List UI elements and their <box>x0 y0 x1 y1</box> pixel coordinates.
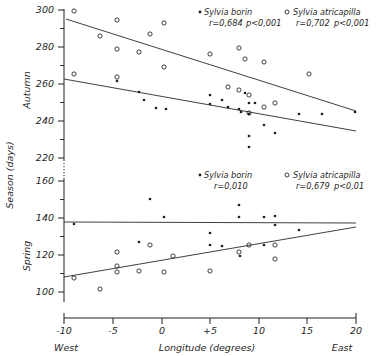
data-point <box>307 72 311 76</box>
x-tick-label-0: 0 <box>159 325 165 336</box>
data-point <box>321 113 324 116</box>
filled-dot-marker-icon <box>199 11 202 14</box>
data-point <box>209 232 212 235</box>
y-tick-label-240: 240 <box>36 115 54 126</box>
data-point <box>298 229 301 232</box>
data-point <box>162 270 166 274</box>
data-point <box>208 269 212 273</box>
data-point <box>274 215 277 218</box>
data-point <box>209 244 212 247</box>
y-axis-autumn-label: Autumn <box>21 71 32 110</box>
data-point <box>208 52 212 56</box>
data-point <box>209 94 212 97</box>
filled-dot-marker-icon <box>199 174 202 177</box>
data-point <box>263 124 266 127</box>
data-point <box>227 106 230 109</box>
data-point <box>237 46 241 50</box>
data-point <box>273 257 277 261</box>
data-point <box>116 80 119 83</box>
autumn-atricapilla-regression-line <box>66 19 356 111</box>
data-point <box>274 224 277 227</box>
data-point <box>137 50 141 54</box>
autumn-regression-lines <box>64 19 356 131</box>
data-point <box>247 93 251 97</box>
y-axis-minor-ticks <box>60 29 64 274</box>
data-point <box>273 243 277 247</box>
data-point <box>248 135 251 138</box>
x-axis-ticks <box>64 318 356 324</box>
data-point <box>115 75 119 79</box>
data-point <box>162 65 166 69</box>
data-point <box>115 18 119 22</box>
data-point <box>248 146 251 149</box>
x-tick-label-plus5: +5 <box>203 325 217 336</box>
data-point <box>115 270 119 274</box>
data-point <box>237 88 241 92</box>
data-point <box>143 99 146 102</box>
x-axis-title: Longitude (degrees) <box>159 342 255 353</box>
autumn-borin-points <box>116 80 357 149</box>
data-point <box>262 105 266 109</box>
data-point <box>209 103 212 106</box>
y-axis-spring-label: Spring <box>21 241 32 272</box>
data-point <box>115 250 119 254</box>
spring-borin-regression-line <box>64 222 356 223</box>
data-point <box>72 72 76 76</box>
x-axis-east-label: East <box>332 342 354 353</box>
spring-legend: Sylvia borin r=0,010 Sylvia atricapilla … <box>199 170 365 191</box>
spring-legend-atricapilla-p: p<0,01 <box>333 181 364 191</box>
data-point <box>137 269 141 273</box>
x-tick-labels: -10 -5 0 +5 10 15 20 <box>56 325 362 336</box>
data-point <box>238 216 241 219</box>
data-point <box>240 111 243 114</box>
y-tick-label-260: 260 <box>36 78 54 89</box>
data-point <box>162 21 166 25</box>
data-point <box>243 57 247 61</box>
autumn-legend-atricapilla-species: Sylvia atricapilla <box>293 7 360 17</box>
data-point <box>263 244 266 247</box>
data-point <box>273 101 277 105</box>
autumn-legend-atricapilla-r: r=0,702 <box>296 18 330 28</box>
data-point <box>115 47 119 51</box>
scatter-plot-figure: 300 280 260 240 220 160 140 120 100 -10 … <box>0 0 378 356</box>
data-point <box>244 92 247 95</box>
spring-atricapilla-points <box>72 243 277 291</box>
spring-borin-points <box>73 198 301 258</box>
x-axis <box>64 313 356 318</box>
x-axis-west-label: West <box>54 342 79 353</box>
y-tick-label-220: 220 <box>36 152 54 163</box>
y-tick-labels-upper: 300 280 260 240 220 <box>36 4 54 163</box>
spring-legend-borin-r: r=0,010 <box>214 181 248 191</box>
autumn-legend-borin-p: p<0,001 <box>245 18 282 28</box>
data-point <box>354 111 357 114</box>
data-point <box>155 107 158 110</box>
spring-atricapilla-regression-line <box>64 227 356 277</box>
y-axis-major-ticks <box>58 10 64 292</box>
y-axis-title: Season (days) <box>4 141 15 208</box>
y-tick-label-300: 300 <box>36 4 54 15</box>
data-point <box>221 99 224 102</box>
data-point <box>238 108 241 111</box>
open-circle-marker-icon <box>285 173 289 177</box>
data-point <box>237 250 241 254</box>
y-tick-label-140: 140 <box>36 212 54 223</box>
data-point <box>263 216 266 219</box>
spring-legend-atricapilla-r: r=0,679 <box>296 181 330 191</box>
data-point <box>148 32 152 36</box>
data-point <box>238 204 241 207</box>
y-tick-labels-lower: 160 140 120 100 <box>36 175 54 297</box>
x-tick-label-20: 20 <box>350 325 362 336</box>
x-tick-label-10: 10 <box>253 325 265 336</box>
data-point <box>262 60 266 64</box>
data-point <box>171 254 175 258</box>
data-point <box>72 9 76 13</box>
data-point <box>239 255 242 258</box>
autumn-legend-borin-r: r=0,684 <box>209 18 243 28</box>
data-point <box>221 245 224 248</box>
x-tick-label-minus10: -10 <box>56 325 72 336</box>
data-point <box>274 132 277 135</box>
data-point <box>248 102 251 105</box>
x-tick-label-minus5: -5 <box>108 325 117 336</box>
data-point <box>72 276 76 280</box>
data-point <box>138 241 141 244</box>
